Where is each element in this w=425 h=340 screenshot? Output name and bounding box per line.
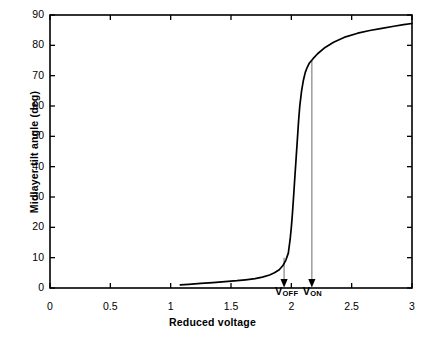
x-tick-label-0.5: 0.5: [90, 300, 130, 312]
y-tick-label-90: 90: [10, 8, 44, 20]
x-tick-label-0: 0: [30, 300, 70, 312]
y-tick-label-20: 20: [10, 220, 44, 232]
data-series-line: [180, 23, 412, 284]
y-tick-label-70: 70: [10, 69, 44, 81]
chart-figure: Reduced voltage Midlayer tilt angle (deg…: [0, 0, 425, 340]
chart-plot-area: [0, 0, 425, 340]
plot-frame: [50, 15, 412, 288]
x-tick-label-3: 3: [392, 300, 425, 312]
y-tick-label-40: 40: [10, 160, 44, 172]
y-tick-label-30: 30: [10, 190, 44, 202]
annotation-label-subscript: OFF: [282, 289, 298, 298]
annotation-label-V_OFF: VOFF: [275, 285, 298, 297]
x-tick-label-1.5: 1.5: [211, 300, 251, 312]
y-tick-label-10: 10: [10, 251, 44, 263]
y-tick-label-60: 60: [10, 99, 44, 111]
x-tick-label-1: 1: [151, 300, 191, 312]
x-tick-label-2.5: 2.5: [332, 300, 372, 312]
x-tick-label-2: 2: [271, 300, 311, 312]
y-tick-label-80: 80: [10, 38, 44, 50]
y-tick-label-0: 0: [10, 281, 44, 293]
y-tick-label-50: 50: [10, 129, 44, 141]
annotation-label-subscript: ON: [310, 289, 322, 298]
x-axis-title: Reduced voltage: [0, 316, 425, 328]
annotation-label-V_ON: VON: [303, 285, 322, 297]
